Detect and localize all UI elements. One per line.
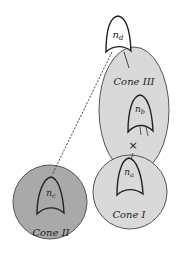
diagram-svg: × nd nb Cone III na Cone I nc Cone II bbox=[0, 0, 178, 261]
cone-II-label: Cone II bbox=[32, 227, 70, 238]
cut-mark: × bbox=[128, 139, 137, 152]
cone-I-label: Cone I bbox=[112, 209, 146, 220]
cone-III-label: Cone III bbox=[113, 76, 155, 87]
cone-diagram: × nd nb Cone III na Cone I nc Cone II bbox=[0, 0, 178, 261]
